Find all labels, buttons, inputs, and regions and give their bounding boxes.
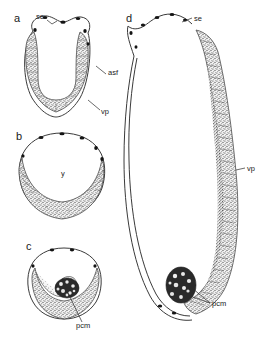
panel-c-pole-cell-mass [55, 278, 79, 298]
panel-letter-d: d [126, 12, 132, 24]
panel-letter-a: a [14, 12, 21, 24]
panel-a-vp-leader [88, 100, 100, 110]
panel-b-nuclei [21, 132, 103, 161]
panel-d-label-pcm: pcm [212, 299, 226, 308]
panel-c-nuclei [31, 249, 96, 268]
panel-d-label-se: se [194, 14, 202, 23]
panel-c: c pcm [26, 240, 101, 330]
panel-b: b y [16, 130, 105, 219]
panel-letter-b: b [16, 130, 22, 142]
panel-a-asf-leader [96, 66, 106, 74]
panel-d-vp-leader [236, 168, 245, 170]
panel-d-label-vp: vp [247, 164, 255, 173]
panel-d: d se vp pcm [124, 12, 255, 320]
panel-a-label-se: se [36, 12, 44, 21]
panel-letter-c: c [26, 240, 32, 252]
panel-d-ventral-plate [184, 30, 238, 314]
panel-a-se-leader [47, 20, 57, 24]
figure-canvas: a se asf vp [0, 0, 270, 338]
panel-c-label-pcm: pcm [76, 321, 90, 330]
panel-a: a se asf vp [14, 12, 119, 117]
panel-d-pole-cell-mass [166, 267, 196, 303]
panel-a-label-asf: asf [108, 68, 119, 77]
panel-b-label-y: y [61, 169, 65, 178]
scientific-figure: a se asf vp [0, 0, 270, 338]
panel-a-label-vp: vp [101, 107, 109, 116]
